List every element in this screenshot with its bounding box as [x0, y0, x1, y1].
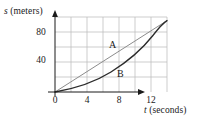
x-tick-label-0: 0: [45, 95, 65, 105]
y-tick-label-40: 40: [31, 55, 51, 65]
y-tick-label-80: 80: [31, 27, 51, 37]
series-line-a: [55, 21, 167, 92]
x-axis-unit: (seconds): [147, 105, 187, 115]
graph-figure: s (meters) t (seconds) 80 40 0 4 8 12 A …: [0, 0, 217, 125]
y-axis-unit: (meters): [8, 6, 43, 16]
y-axis: [52, 10, 58, 96]
x-tick-label-12: 12: [141, 95, 161, 105]
x-axis-title: t (seconds): [144, 105, 187, 115]
y-axis-arrow-icon: [52, 10, 58, 17]
x-tick-label-4: 4: [77, 95, 97, 105]
curve-label-b: B: [117, 68, 124, 79]
y-axis-title: s (meters): [4, 6, 43, 16]
x-tick-label-8: 8: [109, 95, 129, 105]
curve-label-a: A: [109, 39, 116, 50]
